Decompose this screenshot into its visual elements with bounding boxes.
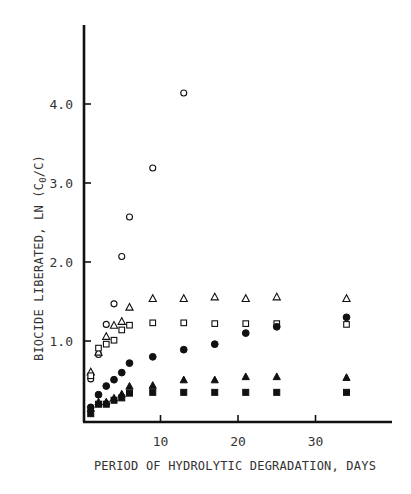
- circle-filled-marker: [126, 360, 133, 367]
- square-open-marker: [96, 345, 102, 351]
- square-open-marker: [212, 321, 218, 327]
- triangle-filled-marker: [180, 376, 187, 383]
- square-filled-marker: [181, 389, 187, 395]
- square-filled-marker: [111, 397, 117, 403]
- circle-filled-marker: [149, 353, 156, 360]
- y-axis-title: BIOCIDE LIBERATED, LN (C0/C): [32, 155, 48, 361]
- y-axis-title-pre: BIOCIDE LIBERATED, LN (C: [32, 183, 46, 361]
- triangle-open-marker: [149, 295, 156, 302]
- square-open-marker: [181, 320, 187, 326]
- square-filled-marker: [243, 389, 249, 395]
- circle-open-marker: [127, 214, 133, 220]
- triangle-filled-marker: [149, 382, 156, 389]
- x-axis-title: PERIOD OF HYDROLYTIC DEGRADATION, DAYS: [94, 459, 376, 473]
- square-open-marker: [127, 322, 133, 328]
- x-tick-label: 10: [153, 434, 169, 449]
- triangle-open-marker: [273, 293, 280, 300]
- square-open-marker: [119, 327, 125, 333]
- ticks: 1020301.02.03.04.0: [50, 97, 324, 449]
- square-open-marker: [243, 321, 249, 327]
- square-filled-marker: [127, 390, 133, 396]
- y-tick-label: 1.0: [50, 334, 73, 349]
- triangle-open-marker: [103, 333, 110, 340]
- circle-open-marker: [181, 90, 187, 96]
- square-filled-marker: [103, 401, 109, 407]
- circle-filled-marker: [242, 330, 249, 337]
- square-filled-marker: [274, 389, 280, 395]
- circle-open-marker: [103, 321, 109, 327]
- data-points: [87, 90, 350, 417]
- y-tick-label: 4.0: [50, 97, 73, 112]
- triangle-open-marker: [110, 322, 117, 329]
- triangle-filled-marker: [343, 374, 350, 381]
- circle-filled-marker: [111, 376, 118, 383]
- triangle-open-marker: [211, 293, 218, 300]
- circle-filled-marker: [343, 314, 350, 321]
- triangle-open-marker: [126, 303, 133, 310]
- square-open-marker: [103, 341, 109, 347]
- square-filled-marker: [88, 411, 94, 417]
- circle-filled-marker: [180, 346, 187, 353]
- y-tick-label: 2.0: [50, 255, 73, 270]
- circle-filled-marker: [211, 341, 218, 348]
- triangle-filled-marker: [211, 376, 218, 383]
- triangle-filled-marker: [242, 373, 249, 380]
- square-open-marker: [88, 373, 94, 379]
- square-filled-marker: [119, 395, 125, 401]
- circle-filled-marker: [273, 323, 280, 330]
- square-filled-marker: [212, 389, 218, 395]
- square-filled-marker: [150, 389, 156, 395]
- x-tick-label: 30: [308, 434, 324, 449]
- circle-filled-marker: [103, 383, 110, 390]
- triangle-open-marker: [118, 318, 125, 325]
- square-open-marker: [344, 322, 350, 328]
- scatter-chart: 1020301.02.03.04.0 PERIOD OF HYDROLYTIC …: [0, 0, 411, 494]
- triangle-filled-marker: [126, 382, 133, 389]
- y-tick-label: 3.0: [50, 176, 73, 191]
- circle-filled-marker: [118, 369, 125, 376]
- triangle-open-marker: [242, 295, 249, 302]
- square-open-marker: [150, 320, 156, 326]
- triangle-open-marker: [180, 295, 187, 302]
- square-filled-marker: [344, 389, 350, 395]
- y-axis-title-post: /C): [32, 155, 46, 177]
- square-filled-marker: [96, 401, 102, 407]
- triangle-open-marker: [343, 295, 350, 302]
- circle-open-marker: [111, 301, 117, 307]
- x-tick-label: 20: [230, 434, 246, 449]
- circle-filled-marker: [95, 391, 102, 398]
- triangle-filled-marker: [273, 373, 280, 380]
- circle-open-marker: [119, 253, 125, 259]
- circle-open-marker: [150, 165, 156, 171]
- square-open-marker: [111, 337, 117, 343]
